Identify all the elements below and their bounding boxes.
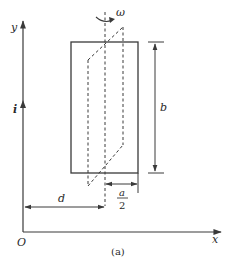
current-label: i [13,103,17,116]
half-width-denominator: 2 [119,200,125,211]
half-width-numerator: a [119,187,125,198]
figure-canvas: ω b a 2 d y i O x (a) [0,0,249,270]
omega-label: ω [116,6,125,19]
current-arrow-icon [20,100,26,108]
height-label: b [160,101,167,114]
y-axis-label: y [10,21,18,34]
x-axis-label: x [212,233,219,246]
origin-label: O [17,236,26,249]
distance-label: d [58,192,65,205]
figure-caption: (a) [111,246,125,257]
